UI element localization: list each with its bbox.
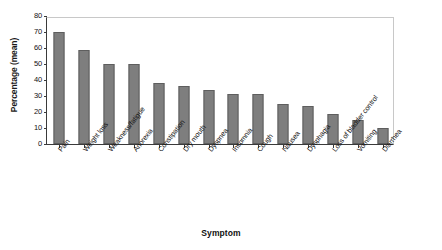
bar: [104, 64, 115, 144]
bar-slot: [146, 18, 171, 144]
bar: [253, 94, 264, 144]
y-tick-label: 50: [34, 59, 42, 69]
bar-slot: [47, 18, 72, 144]
bar-slot: [370, 18, 395, 144]
bar-slot: [72, 18, 97, 144]
y-tick-label: 70: [34, 27, 42, 37]
bar: [203, 90, 214, 144]
y-tick-label: 10: [34, 123, 42, 133]
y-tick-mark: [44, 16, 47, 17]
x-axis-title: Symptom: [0, 228, 442, 238]
bar-chart-figure: Percentage (mean) 01020304050607080 Pain…: [0, 0, 442, 250]
y-tick-label: 30: [34, 91, 42, 101]
y-tick-label: 80: [34, 11, 42, 21]
bar: [54, 32, 65, 144]
bar: [128, 64, 139, 144]
bar: [178, 86, 189, 144]
y-tick-label: 60: [34, 43, 42, 53]
bar-slot: [246, 18, 271, 144]
y-axis-title: Percentage (mean): [9, 20, 23, 130]
y-tick-label: 20: [34, 107, 42, 117]
x-axis-tick-labels: PainWeight lossWeakness/fatigueAnorexiaC…: [46, 146, 394, 224]
bar-slot: [221, 18, 246, 144]
bar-slot: [271, 18, 296, 144]
y-tick-label: 0: [38, 139, 42, 149]
bar: [153, 83, 164, 144]
bar-slot: [296, 18, 321, 144]
y-tick-label: 40: [34, 75, 42, 85]
bar: [79, 50, 90, 144]
